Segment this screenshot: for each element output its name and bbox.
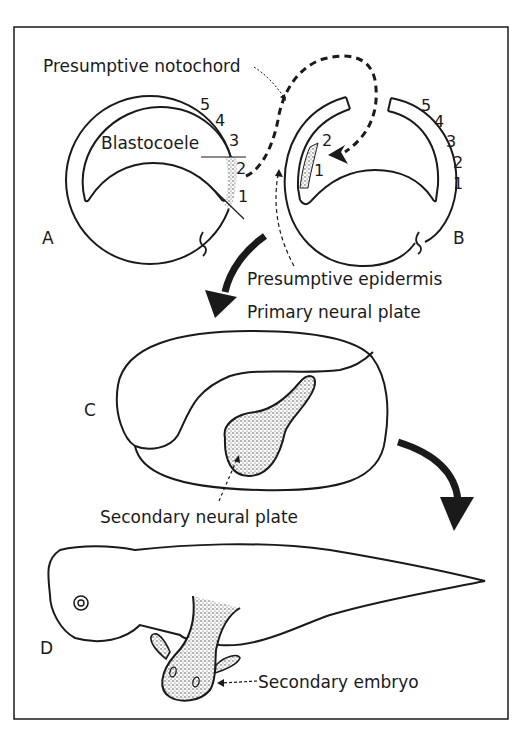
presumptive-epidermis-label: Presumptive epidermis (247, 269, 443, 289)
panel-label-b: B (453, 228, 465, 248)
marker-b-graft-1: 1 (314, 161, 324, 180)
blastocoele-label: Blastocoele (101, 133, 199, 153)
marker-a-2: 2 (236, 159, 246, 178)
marker-b-1: 1 (453, 174, 463, 193)
marker-b-2: 2 (453, 153, 463, 172)
marker-b-3: 3 (446, 132, 456, 151)
transition-arrow-c-to-d (398, 442, 458, 500)
secondary-embryo-right-fin (215, 656, 240, 673)
panel-a: 5 4 3 2 1 Blastocoele A (42, 95, 248, 264)
secondary-embryo-left-fin (151, 634, 170, 659)
marker-b-4: 4 (434, 112, 444, 131)
panel-d: D Secondary embryo (40, 544, 485, 700)
marker-a-4: 4 (215, 111, 225, 130)
larva-body (48, 544, 485, 645)
marker-b-graft-2: 2 (322, 131, 332, 150)
transition-arrowhead-c-to-d-icon (440, 497, 474, 531)
diagram-figure: 5 4 3 2 1 Blastocoele A 2 1 5 4 3 2 1 B (0, 0, 525, 733)
marker-b-5: 5 (421, 96, 431, 115)
panel-label-a: A (42, 228, 54, 248)
secondary-embryo-leader (222, 681, 257, 683)
epidermis-leader-arrowhead-icon (275, 169, 283, 177)
transition-arrowhead-b-to-c-icon (205, 290, 237, 318)
blastopore-b (416, 232, 421, 254)
panel-label-d: D (40, 638, 53, 658)
marker-a-1: 1 (238, 187, 248, 206)
gastrula-b-right-wall (388, 98, 456, 242)
secondary-embryo-label: Secondary embryo (258, 672, 419, 692)
panel-b: 2 1 5 4 3 2 1 B (285, 96, 465, 266)
panel-c: C Secondary neural plate (84, 331, 387, 527)
primary-neural-plate-label: Primary neural plate (247, 302, 421, 322)
panel-label-c: C (84, 400, 96, 420)
notochord-leader-line (254, 67, 285, 99)
marker-a-3: 3 (229, 131, 239, 150)
presumptive-notochord-label: Presumptive notochord (43, 56, 241, 76)
secondary-neural-plate-label: Secondary neural plate (100, 507, 298, 527)
secondary-embryo-arrowhead-icon (217, 679, 224, 687)
marker-a-5: 5 (200, 95, 210, 114)
